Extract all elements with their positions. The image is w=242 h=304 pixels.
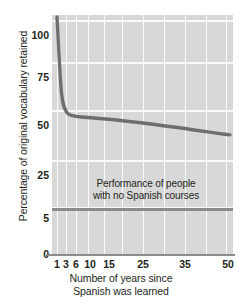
forgetting-curve-chart: Percentage of original vocabulary retain… xyxy=(0,0,242,304)
y-tick-75: 75 xyxy=(3,72,49,83)
x-axis-line xyxy=(46,254,235,256)
x-axis-tick-labels: 1 3 6 10 15 25 35 50 xyxy=(52,258,233,271)
retention-curve xyxy=(52,15,233,255)
x-axis-title: Number of years since Spanish was learne… xyxy=(0,272,242,298)
x-tick-25: 25 xyxy=(128,258,158,270)
x-axis-title-line-2: Spanish was learned xyxy=(0,285,242,298)
x-tick-50: 50 xyxy=(213,258,242,270)
annotation-line-2: with no Spanish courses xyxy=(66,190,226,202)
y-axis-tick-labels: 100 75 50 25 5 0 xyxy=(0,15,49,255)
x-axis-title-line-1: Number of years since xyxy=(0,272,242,285)
no-courses-baseline xyxy=(52,208,233,211)
y-tick-5: 5 xyxy=(3,213,49,224)
annotation-line-1: Performance of people xyxy=(66,178,226,190)
y-tick-25: 25 xyxy=(3,170,49,181)
y-tick-100: 100 xyxy=(3,30,49,41)
y-tick-50: 50 xyxy=(3,120,49,131)
x-tick-35: 35 xyxy=(170,258,200,270)
x-tick-15: 15 xyxy=(94,258,124,270)
plot-area: Performance of people with no Spanish co… xyxy=(52,15,233,255)
no-courses-annotation: Performance of people with no Spanish co… xyxy=(66,178,226,203)
